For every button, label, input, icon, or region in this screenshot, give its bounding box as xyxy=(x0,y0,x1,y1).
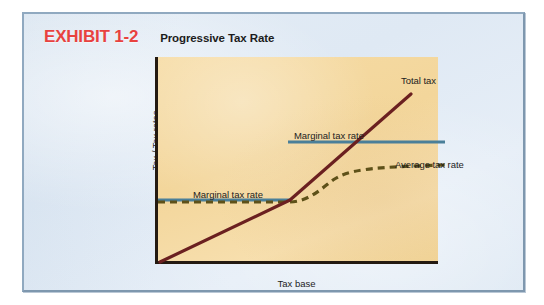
chart-container: Tax / Tax rates Total tax Marginal tax r… xyxy=(133,57,438,268)
series-label-marginal-tax-rate-upper: Marginal tax rate xyxy=(294,130,364,141)
x-axis-label: Tax base xyxy=(155,278,438,289)
series-label-average-tax-rate: Average tax rate xyxy=(395,159,464,170)
exhibit-number: EXHIBIT 1-2 xyxy=(44,27,138,47)
series-total-tax xyxy=(160,94,411,262)
exhibit-panel: EXHIBIT 1-2 Progressive Tax Rate Tax / T… xyxy=(22,12,525,292)
exhibit-header: EXHIBIT 1-2 Progressive Tax Rate xyxy=(44,27,274,47)
series-label-total-tax: Total tax xyxy=(401,75,436,86)
series-label-marginal-tax-rate-lower: Marginal tax rate xyxy=(193,189,263,200)
exhibit-title: Progressive Tax Rate xyxy=(160,32,274,44)
plot-area: Total tax Marginal tax rate Average tax … xyxy=(155,57,438,264)
